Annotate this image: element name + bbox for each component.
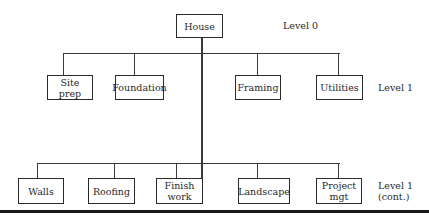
node-project-mgt-label: Project mgt (322, 180, 356, 202)
node-site-prep: Site prep (47, 75, 93, 100)
bottom-divider-rule (0, 210, 429, 213)
level1-row2-bus-line (37, 163, 340, 164)
node-site-prep-label: Site prep (48, 77, 92, 99)
node-foundation-label: Foundation (112, 82, 166, 93)
root-trunk-line (201, 37, 203, 178)
node-roofing: Roofing (88, 178, 135, 204)
node-walls-label: Walls (28, 186, 54, 197)
node-landscape: Landscape (238, 178, 290, 204)
node-roofing-label: Roofing (93, 186, 130, 197)
wbs-diagram: House Level 0 Site prep Foundation Frami… (0, 0, 429, 218)
connector-project-mgt (338, 163, 339, 178)
node-utilities: Utilities (316, 75, 363, 100)
node-framing-label: Framing (237, 82, 278, 93)
connector-utilities (338, 53, 339, 75)
node-project-mgt: Project mgt (316, 178, 362, 204)
level-0-label: Level 0 (283, 20, 318, 31)
node-finish-work: Finish work (156, 178, 203, 204)
level-1-label: Level 1 (378, 82, 413, 93)
node-framing: Framing (235, 75, 281, 100)
node-foundation: Foundation (115, 75, 164, 100)
connector-framing (257, 53, 258, 75)
node-house-label: House (184, 21, 215, 32)
node-house: House (176, 14, 223, 38)
connector-foundation (134, 53, 135, 75)
level1-row1-bus-line (63, 53, 340, 54)
node-walls: Walls (18, 178, 64, 204)
node-utilities-label: Utilities (320, 82, 358, 93)
connector-walls (37, 163, 38, 178)
node-landscape-label: Landscape (238, 186, 290, 197)
connector-landscape (257, 163, 258, 178)
connector-roofing (114, 163, 115, 178)
connector-site-prep (63, 53, 64, 75)
node-finish-work-label: Finish work (165, 180, 195, 202)
connector-finish-work (176, 163, 177, 178)
level-1-cont-label: Level 1 (cont.) (378, 180, 413, 202)
